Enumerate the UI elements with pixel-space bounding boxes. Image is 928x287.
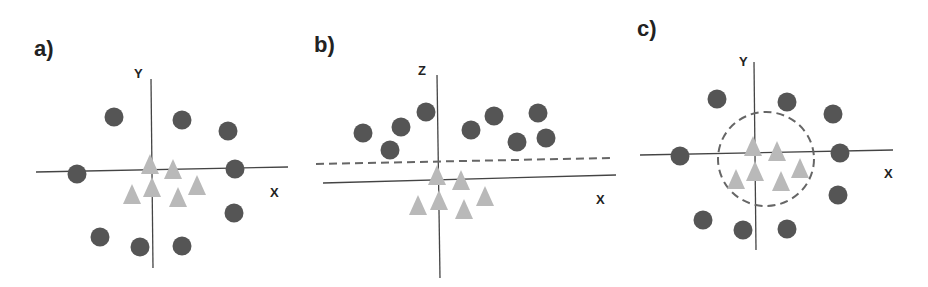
- triangle-marker: [143, 177, 161, 197]
- panel-c-y-axis-label: Y: [739, 54, 748, 69]
- circle-marker: [778, 93, 797, 112]
- circle-marker: [694, 211, 713, 230]
- circle-marker: [485, 107, 504, 126]
- panel-a-triangles: [123, 154, 206, 207]
- circle-marker: [734, 221, 753, 240]
- circle-marker: [778, 220, 797, 239]
- triangle-marker: [409, 195, 427, 215]
- panel-b-x-axis-label: X: [596, 192, 605, 207]
- triangle-marker: [141, 154, 159, 174]
- circle-marker: [671, 147, 690, 166]
- triangle-marker: [428, 165, 446, 185]
- circle-marker: [68, 165, 87, 184]
- triangle-marker: [476, 186, 494, 206]
- panel-a-label: a): [34, 36, 54, 61]
- panel-a: a) Y X: [34, 36, 288, 268]
- panel-a-x-axis-label: X: [270, 185, 279, 200]
- panel-b-circles: [354, 103, 556, 160]
- circle-marker: [131, 238, 150, 257]
- circle-marker: [354, 124, 373, 143]
- triangle-marker: [768, 141, 786, 161]
- circle-marker: [708, 90, 727, 109]
- figure-canvas: a) Y X b) Z X c) Y X: [0, 0, 928, 287]
- triangle-marker: [455, 199, 473, 219]
- panel-b-x-axis: [323, 175, 616, 183]
- panel-b-dashed-boundary: [316, 158, 612, 164]
- circle-marker: [173, 237, 192, 256]
- circle-marker: [824, 105, 843, 124]
- circle-marker: [508, 133, 527, 152]
- triangle-marker: [746, 161, 764, 181]
- panel-c-circles: [671, 90, 850, 240]
- circle-marker: [462, 121, 481, 140]
- circle-marker: [173, 111, 192, 130]
- panel-b-triangles: [409, 165, 494, 219]
- circle-marker: [226, 160, 245, 179]
- circle-marker: [225, 204, 244, 223]
- triangle-marker: [188, 175, 206, 195]
- circle-marker: [91, 228, 110, 247]
- circle-marker: [417, 103, 436, 122]
- triangle-marker: [123, 184, 141, 204]
- circle-marker: [381, 141, 400, 160]
- panel-c-label: c): [637, 16, 657, 41]
- panel-b: b) Z X: [314, 32, 616, 278]
- panel-a-circles: [68, 108, 245, 257]
- circle-marker: [831, 144, 850, 163]
- panel-c-triangles: [727, 136, 809, 191]
- circle-marker: [829, 186, 848, 205]
- circle-marker: [537, 129, 556, 148]
- triangle-marker: [744, 136, 762, 156]
- triangle-marker: [430, 190, 448, 210]
- circle-marker: [529, 104, 548, 123]
- triangle-marker: [791, 158, 809, 178]
- panel-b-z-axis-label: Z: [418, 63, 426, 78]
- panel-a-y-axis-label: Y: [134, 66, 143, 81]
- circle-marker: [219, 122, 238, 141]
- triangle-marker: [169, 187, 187, 207]
- triangle-marker: [727, 169, 745, 189]
- panel-c-x-axis-label: X: [884, 166, 893, 181]
- panel-b-label: b): [314, 32, 335, 57]
- circle-marker: [392, 118, 411, 137]
- triangle-marker: [772, 171, 790, 191]
- panel-c: c) Y X: [637, 16, 893, 250]
- circle-marker: [105, 108, 124, 127]
